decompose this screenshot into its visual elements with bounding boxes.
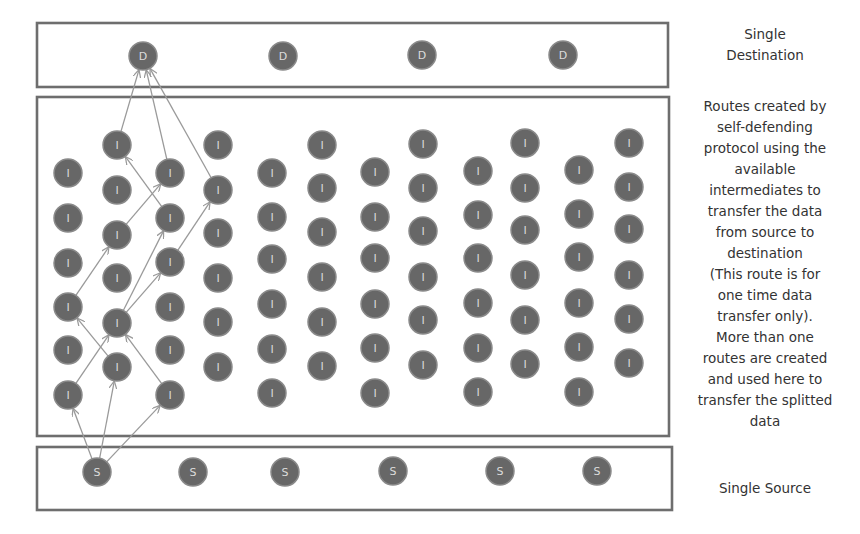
destination-node: D — [129, 42, 157, 70]
intermediate-node-label: I — [627, 223, 630, 236]
intermediate-node-label: I — [168, 344, 171, 357]
intermediate-node-label: I — [168, 256, 171, 269]
intermediate-node-label: I — [168, 167, 171, 180]
intermediate-node: I — [258, 290, 286, 318]
intermediate-node: I — [409, 130, 437, 158]
intermediate-node: I — [565, 333, 593, 361]
intermediate-node-label: I — [476, 252, 479, 265]
intermediate-node: I — [464, 289, 492, 317]
source-node-label: S — [282, 466, 289, 479]
intermediate-node: I — [204, 353, 232, 381]
single-source-label: Single Source — [676, 478, 854, 499]
intermediate-node-label: I — [270, 298, 273, 311]
intermediate-node: I — [565, 289, 593, 317]
intermediate-node-label: I — [320, 360, 323, 373]
intermediate-node-label: I — [66, 344, 69, 357]
intermediate-node-label: I — [66, 301, 69, 314]
intermediate-node: I — [464, 244, 492, 272]
intermediate-node-label: I — [421, 271, 424, 284]
intermediate-nodes: IIIIIIIIIIIIIIIIIIIIIIIIIIIIIIIIIIIIIIII… — [54, 129, 643, 409]
intermediate-node: I — [156, 204, 184, 232]
intermediate-node: I — [54, 204, 82, 232]
intermediate-node: I — [511, 306, 539, 334]
routes-layer — [73, 69, 211, 462]
destination-nodes: DDDD — [129, 41, 577, 70]
route-arrow — [146, 71, 166, 160]
intermediate-node-label: I — [270, 253, 273, 266]
intermediate-node-label: I — [627, 137, 630, 150]
route-arrow — [76, 247, 109, 295]
intermediate-node: I — [308, 263, 336, 291]
intermediate-node: I — [361, 158, 389, 186]
intermediate-node-label: I — [476, 386, 479, 399]
intermediate-node: I — [156, 159, 184, 187]
intermediate-node-label: I — [523, 182, 526, 195]
intermediate-node-label: I — [577, 208, 580, 221]
route-arrow — [150, 69, 211, 178]
intermediate-node: I — [361, 203, 389, 231]
source-node-label: S — [94, 466, 101, 479]
intermediate-node-label: I — [476, 297, 479, 310]
source-node: S — [379, 457, 407, 485]
intermediate-node-label: I — [577, 251, 580, 264]
source-nodes: SSSSSS — [83, 457, 611, 486]
intermediate-node-label: I — [115, 229, 118, 242]
intermediate-node: I — [258, 379, 286, 407]
intermediate-node: I — [511, 216, 539, 244]
routes-description-label: Routes created by self-defending protoco… — [672, 96, 858, 432]
intermediate-node: I — [409, 174, 437, 202]
intermediate-node-label: I — [627, 313, 630, 326]
intermediate-node: I — [361, 244, 389, 272]
intermediate-node: I — [258, 159, 286, 187]
intermediate-node-label: I — [627, 269, 630, 282]
intermediate-node-label: I — [216, 227, 219, 240]
intermediate-node-label: I — [421, 225, 424, 238]
intermediate-node-label: I — [270, 387, 273, 400]
route-arrow — [107, 406, 160, 462]
intermediate-node: I — [565, 156, 593, 184]
intermediate-node: I — [204, 264, 232, 292]
intermediate-node-label: I — [168, 301, 171, 314]
intermediate-node: I — [156, 381, 184, 409]
destination-node-label: D — [139, 50, 147, 63]
intermediate-node-label: I — [115, 139, 118, 152]
intermediate-node-label: I — [216, 316, 219, 329]
intermediate-node-label: I — [270, 343, 273, 356]
intermediate-node: I — [615, 173, 643, 201]
intermediate-node: I — [54, 336, 82, 364]
intermediate-node-label: I — [373, 342, 376, 355]
source-node: S — [179, 458, 207, 486]
intermediate-node-label: I — [66, 389, 69, 402]
source-box — [37, 447, 672, 510]
intermediate-node-label: I — [523, 358, 526, 371]
intermediate-node-label: I — [66, 167, 69, 180]
intermediate-node-label: I — [115, 317, 118, 330]
intermediate-node: I — [204, 308, 232, 336]
intermediate-node: I — [308, 174, 336, 202]
intermediate-node-label: I — [216, 139, 219, 152]
intermediate-node: I — [615, 215, 643, 243]
intermediate-node-label: I — [523, 224, 526, 237]
intermediate-node-label: I — [523, 314, 526, 327]
intermediate-node: I — [54, 381, 82, 409]
intermediate-node: I — [409, 351, 437, 379]
source-node: S — [486, 457, 514, 485]
intermediate-node-label: I — [476, 342, 479, 355]
intermediate-node: I — [103, 176, 131, 204]
intermediate-node-label: I — [320, 316, 323, 329]
intermediate-node: I — [565, 378, 593, 406]
intermediate-node: I — [615, 129, 643, 157]
intermediate-node: I — [258, 203, 286, 231]
intermediate-node: I — [54, 159, 82, 187]
intermediate-node-label: I — [421, 182, 424, 195]
intermediate-node: I — [103, 131, 131, 159]
source-node-label: S — [190, 466, 197, 479]
intermediate-node: I — [156, 248, 184, 276]
intermediate-node: I — [615, 261, 643, 289]
intermediate-node: I — [511, 261, 539, 289]
intermediate-node-label: I — [577, 386, 580, 399]
intermediate-node: I — [258, 335, 286, 363]
intermediate-node: I — [308, 352, 336, 380]
destination-node: D — [269, 42, 297, 70]
destination-node-label: D — [418, 49, 426, 62]
